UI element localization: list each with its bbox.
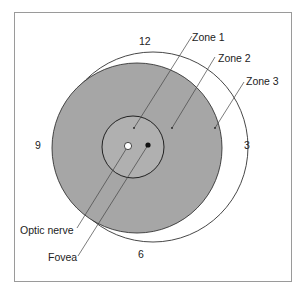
zone-1-label: Zone 1 — [192, 31, 225, 43]
fovea-dot — [145, 142, 150, 147]
clock-label-3: 3 — [244, 139, 250, 151]
zone-2-label: Zone 2 — [218, 52, 251, 64]
zone-1-marker — [133, 127, 135, 129]
zone-3-marker — [214, 127, 216, 129]
fovea-label: Fovea — [48, 251, 77, 263]
optic-nerve-dot — [124, 142, 131, 149]
zone-2-marker — [171, 127, 173, 129]
retina-zone-diagram: 12 3 6 9 Zone 1 Zone 2 Zone 3 Optic nerv… — [0, 0, 298, 289]
clock-label-9: 9 — [35, 139, 41, 151]
clock-label-6: 6 — [138, 248, 144, 260]
zone-3-label: Zone 3 — [246, 75, 279, 87]
optic-nerve-label: Optic nerve — [20, 224, 74, 236]
clock-label-12: 12 — [139, 35, 151, 47]
